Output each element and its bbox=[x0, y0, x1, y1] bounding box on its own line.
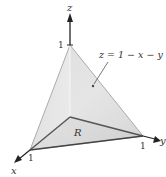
x-tick-label: 1 bbox=[28, 153, 34, 163]
surface-pointer-dot bbox=[92, 85, 94, 87]
region-label: R bbox=[73, 127, 82, 138]
z-tick-label: 1 bbox=[58, 40, 64, 50]
y-axis bbox=[143, 136, 155, 139]
x-axis-label: x bbox=[11, 165, 17, 176]
z-axis-label: z bbox=[66, 2, 73, 13]
y-axis-label: y bbox=[159, 135, 166, 146]
z-axis-arrow-icon bbox=[67, 13, 73, 22]
y-tick-label: 1 bbox=[140, 141, 146, 151]
surface-plane bbox=[30, 45, 143, 150]
surface-equation-label: z = 1 − x − y bbox=[98, 49, 163, 60]
x-axis-arrow-icon bbox=[14, 155, 22, 163]
surface-pointer bbox=[94, 62, 108, 84]
tetrahedron-diagram: z 1 z = 1 − x − y R 1 1 x y bbox=[0, 0, 166, 177]
